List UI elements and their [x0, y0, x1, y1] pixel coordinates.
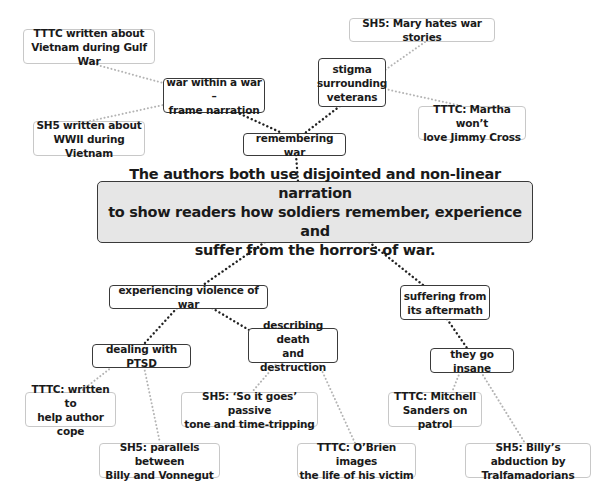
link-experiencing-death [212, 308, 249, 330]
leaf-label: SH5: Billy’s abduction by Tralfamadorian… [466, 440, 590, 482]
leaf-sh5-so-it-goes: SH5: ‘So it goes’ passive tone and time-… [181, 392, 318, 427]
leaf-sh5-parallels: SH5: parallels between Billy and Vonnegu… [99, 443, 220, 478]
leaf-label: TTTC: O’Brien images the life of his vic… [298, 440, 415, 482]
link-experiencing-ptsd [144, 308, 177, 344]
leaf-tttc-mitchell: TTTC: Mitchell Sanders on patrol [388, 392, 482, 427]
link-insane-leaf-billy [481, 372, 525, 443]
branch-label: suffering from its aftermath [404, 289, 487, 317]
branch-suffering-aftermath: suffering from its aftermath [400, 285, 490, 320]
central-thesis-text: The authors both use disjointed and non-… [98, 165, 532, 260]
leaf-label: SH5: parallels between Billy and Vonnegu… [100, 440, 219, 482]
leaf-sh5-billy-abduction: SH5: Billy’s abduction by Tralfamadorian… [465, 443, 591, 478]
link-stigma-leaf-mary [385, 42, 425, 70]
leaf-label: SH5 written about WWII during Vietnam [34, 118, 144, 160]
leaf-label: SH5: ‘So it goes’ passive tone and time-… [182, 389, 317, 431]
leaf-tttc-cope: TTTC: written to help author cope [25, 392, 116, 427]
leaf-tttc-martha: TTTC: Martha won’t love Jimmy Cross [418, 106, 526, 140]
leaf-label: TTTC: Martha won’t love Jimmy Cross [419, 102, 525, 144]
subbranch-they-go-insane: they go insane [430, 348, 514, 373]
link-ptsd-leaf-parallels [144, 367, 160, 443]
subbranch-death-destruction: describing death and destruction [248, 328, 338, 363]
leaf-label: SH5: Mary hates war stories [350, 16, 494, 44]
leaf-sh5-mary: SH5: Mary hates war stories [349, 18, 495, 42]
central-thesis-node: The authors both use disjointed and non-… [97, 181, 533, 243]
leaf-tttc-gulf-war: TTTC written about Vietnam during Gulf W… [23, 29, 155, 64]
branch-label: experiencing violence of war [110, 283, 267, 311]
subbranch-stigma-veterans: stigma surrounding veterans [318, 58, 386, 107]
leaf-label: TTTC: Mitchell Sanders on patrol [389, 389, 481, 431]
leaf-tttc-obrien: TTTC: O’Brien images the life of his vic… [297, 443, 416, 478]
link-death-leaf-obrien [318, 362, 355, 443]
subbranch-label: stigma surrounding veterans [317, 62, 387, 104]
leaf-label: TTTC written about Vietnam during Gulf W… [24, 26, 154, 68]
leaf-sh5-wwii: SH5 written about WWII during Vietnam [33, 121, 145, 156]
subbranch-label: they go insane [431, 347, 513, 375]
subbranch-frame-narration: war within a war – frame narration [163, 78, 265, 113]
branch-experiencing-violence: experiencing violence of war [109, 285, 268, 309]
subbranch-label: describing death and destruction [249, 318, 337, 374]
branch-remembering-war: remembering war [243, 133, 346, 156]
link-suffering-insane [447, 319, 467, 348]
link-remembering-stigma [305, 106, 340, 133]
leaf-label: TTTC: written to help author cope [26, 382, 115, 438]
subbranch-label: dealing with PTSD [93, 342, 190, 370]
subbranch-label: war within a war – frame narration [164, 75, 264, 117]
subbranch-dealing-ptsd: dealing with PTSD [92, 344, 191, 368]
branch-label: remembering war [244, 131, 345, 159]
